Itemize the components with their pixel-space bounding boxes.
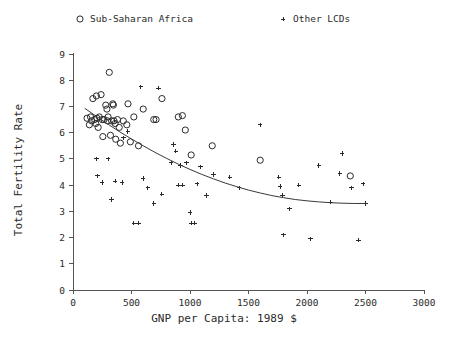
y-axis-label: Total Fertility Rate xyxy=(12,104,25,236)
data-point-circle xyxy=(188,152,194,158)
data-point-circle xyxy=(120,118,126,124)
scatter-plot-figure: Sub-Saharan AfricaOther LCDs 05001000150… xyxy=(0,0,449,339)
data-point-plus xyxy=(94,157,98,161)
chart-axes xyxy=(73,53,425,290)
data-point-circle xyxy=(182,127,188,133)
data-point-plus xyxy=(152,201,156,205)
data-point-plus xyxy=(113,179,117,183)
data-point-circle xyxy=(84,115,90,121)
data-point-plus xyxy=(176,183,180,187)
data-point-plus xyxy=(126,129,130,133)
data-point-plus xyxy=(338,171,342,175)
x-tick-label: 0 xyxy=(70,297,76,308)
y-axis-ticks: 0123456789 xyxy=(59,49,73,296)
x-axis-label: GNP per Capita: 1989 $ xyxy=(151,312,297,325)
data-point-plus xyxy=(100,180,104,184)
y-tick-label: 9 xyxy=(59,49,65,60)
legend-marker-plus xyxy=(281,17,285,21)
y-tick-label: 7 xyxy=(59,101,65,112)
data-point-plus xyxy=(146,186,150,190)
y-tick-label: 8 xyxy=(59,75,65,86)
x-tick-label: 1000 xyxy=(179,297,202,308)
data-point-circle xyxy=(106,69,112,75)
data-point-plus xyxy=(184,161,188,165)
data-point-circle xyxy=(131,114,137,120)
y-tick-label: 2 xyxy=(59,232,65,243)
data-point-circle xyxy=(117,140,123,146)
data-point-plus xyxy=(361,182,365,186)
data-point-plus xyxy=(139,85,143,89)
data-point-plus xyxy=(132,221,136,225)
data-point-plus xyxy=(171,142,175,146)
y-tick-label: 0 xyxy=(59,285,65,296)
chart-legend: Sub-Saharan AfricaOther LCDs xyxy=(77,13,350,24)
data-point-plus xyxy=(156,86,160,90)
series-other-lcds xyxy=(94,85,368,243)
chart-canvas: Sub-Saharan AfricaOther LCDs 05001000150… xyxy=(0,0,449,339)
axis-lines xyxy=(73,53,425,290)
data-point-circle xyxy=(124,122,130,128)
y-tick-label: 5 xyxy=(59,153,65,164)
x-tick-label: 3000 xyxy=(413,297,436,308)
x-tick-label: 2000 xyxy=(296,297,319,308)
data-point-circle xyxy=(103,102,109,108)
data-point-plus xyxy=(287,207,291,211)
y-tick-label: 6 xyxy=(59,127,65,138)
data-point-plus xyxy=(95,174,99,178)
data-point-circle xyxy=(140,106,146,112)
data-point-plus xyxy=(258,123,262,127)
legend-label-other-lcds: Other LCDs xyxy=(293,13,350,24)
data-point-plus xyxy=(278,184,282,188)
data-point-plus xyxy=(340,151,344,155)
data-point-plus xyxy=(228,175,232,179)
data-point-plus xyxy=(297,183,301,187)
data-point-plus xyxy=(356,238,360,242)
data-point-circle xyxy=(179,113,185,119)
data-point-circle xyxy=(175,114,181,120)
x-tick-label: 500 xyxy=(123,297,140,308)
x-tick-label: 1500 xyxy=(237,297,260,308)
data-point-plus xyxy=(277,175,281,179)
data-point-plus xyxy=(211,172,215,176)
data-point-plus xyxy=(192,221,196,225)
data-point-plus xyxy=(106,157,110,161)
data-point-plus xyxy=(281,233,285,237)
data-point-plus xyxy=(160,192,164,196)
x-tick-label: 2500 xyxy=(354,297,377,308)
data-point-circle xyxy=(257,157,263,163)
data-point-plus xyxy=(141,176,145,180)
data-point-plus xyxy=(308,237,312,241)
data-point-plus xyxy=(121,136,125,140)
trend-line xyxy=(85,108,366,203)
y-tick-label: 4 xyxy=(59,180,65,191)
data-point-circle xyxy=(100,134,106,140)
data-point-plus xyxy=(195,182,199,186)
data-point-plus xyxy=(109,197,113,201)
data-point-plus xyxy=(349,186,353,190)
series-sub-saharan-africa xyxy=(84,69,353,179)
data-point-plus xyxy=(120,180,124,184)
y-tick-label: 1 xyxy=(59,258,65,269)
data-point-plus xyxy=(136,221,140,225)
data-point-circle xyxy=(209,143,215,149)
data-point-plus xyxy=(198,165,202,169)
legend-label-sub-saharan-africa: Sub-Saharan Africa xyxy=(90,13,193,24)
data-point-plus xyxy=(317,163,321,167)
data-point-plus xyxy=(204,193,208,197)
data-points xyxy=(84,69,368,242)
data-point-circle xyxy=(104,106,110,112)
legend-marker-circle xyxy=(77,16,83,22)
data-point-circle xyxy=(125,101,131,107)
data-point-circle xyxy=(159,95,165,101)
data-point-plus xyxy=(188,210,192,214)
data-point-plus xyxy=(174,149,178,153)
data-point-plus xyxy=(181,183,185,187)
y-tick-label: 3 xyxy=(59,206,65,217)
x-axis-ticks: 050010001500200025003000 xyxy=(70,290,436,308)
fit-curve xyxy=(85,108,366,203)
data-point-circle xyxy=(347,173,353,179)
